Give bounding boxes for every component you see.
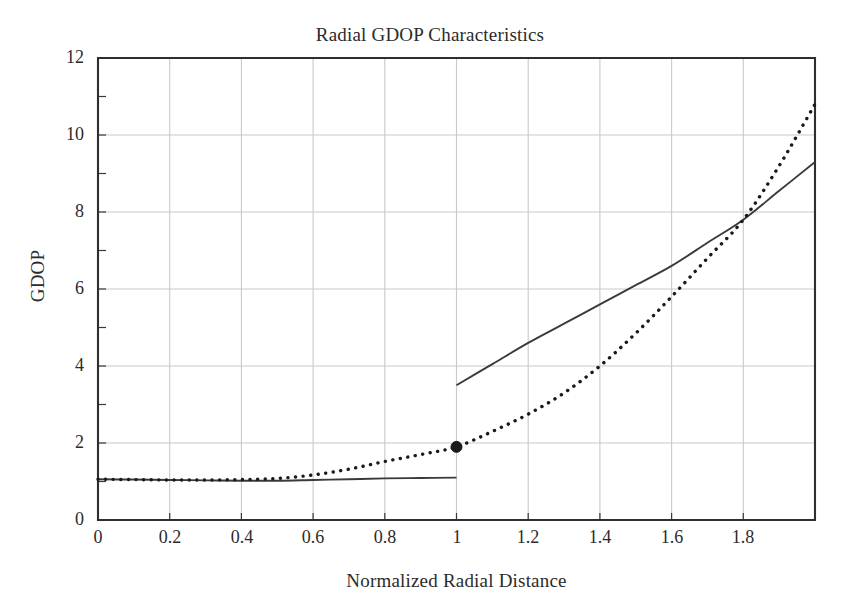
series-solid-curve-outside-region: [457, 162, 816, 385]
plot-canvas: [0, 0, 860, 616]
marker-transition-point: [451, 441, 462, 452]
chart-figure: Radial GDOP Characteristics GDOP Normali…: [0, 0, 860, 616]
data-markers-group: [451, 441, 462, 452]
